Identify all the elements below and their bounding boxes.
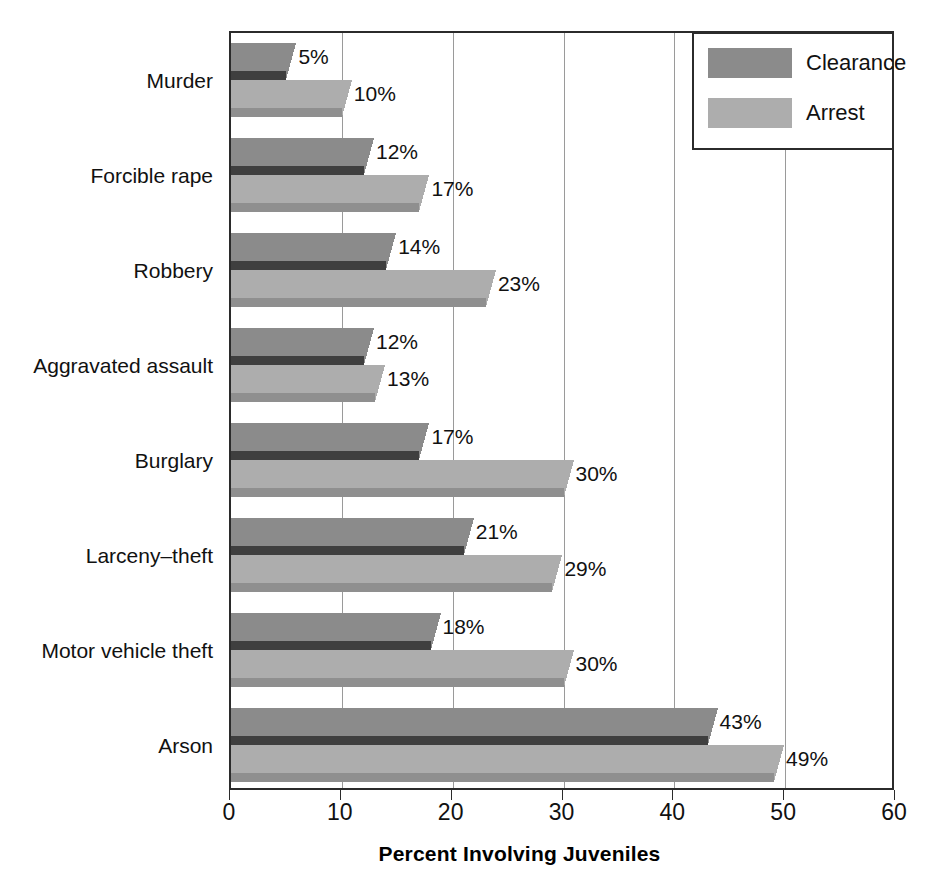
bar-face bbox=[231, 423, 419, 451]
bar bbox=[231, 423, 419, 460]
category-label-robbery: Robbery bbox=[134, 260, 213, 281]
legend-label-clearance: Clearance bbox=[806, 52, 906, 74]
legend-entry-clearance: Clearance bbox=[708, 48, 906, 78]
legend-label-arrest: Arrest bbox=[806, 102, 865, 124]
x-tick-label-50: 50 bbox=[770, 801, 796, 824]
bar-shadow bbox=[231, 166, 364, 175]
bar bbox=[231, 555, 552, 592]
bar-shadow bbox=[231, 108, 342, 117]
bar-shadow bbox=[231, 261, 386, 270]
bar-value-label: 13% bbox=[387, 368, 429, 389]
bar-value-label: 5% bbox=[298, 46, 328, 67]
category-label-arson: Arson bbox=[158, 734, 213, 755]
category-label-larceny-theft: Larceny–theft bbox=[86, 544, 213, 565]
bar-cap bbox=[464, 518, 474, 555]
x-axis-title-text: Percent Involving Juveniles bbox=[379, 842, 661, 866]
bar-shadow bbox=[231, 298, 486, 307]
bar-shadow bbox=[231, 488, 564, 497]
bar-value-label: 18% bbox=[443, 615, 485, 636]
bar-value-label: 30% bbox=[576, 462, 618, 483]
bar-shadow bbox=[231, 451, 419, 460]
bar-face bbox=[231, 555, 552, 583]
bar-face bbox=[231, 233, 386, 261]
bar-cap bbox=[774, 745, 784, 782]
bar bbox=[231, 43, 286, 80]
bar bbox=[231, 233, 386, 270]
x-tick-label-10: 10 bbox=[327, 801, 353, 824]
bar-value-label: 43% bbox=[720, 710, 762, 731]
bar-face bbox=[231, 460, 564, 488]
legend-swatch-clearance-icon bbox=[708, 48, 792, 78]
legend-entry-arrest: Arrest bbox=[708, 98, 865, 128]
bar bbox=[231, 518, 464, 555]
category-label-murder: Murder bbox=[146, 70, 213, 91]
bar-shadow bbox=[231, 356, 364, 365]
bar-face bbox=[231, 518, 464, 546]
bar-face bbox=[231, 175, 419, 203]
gridline-40 bbox=[674, 33, 675, 788]
bar-shadow bbox=[231, 71, 286, 80]
bar-cap bbox=[419, 423, 429, 460]
x-tick-label-0: 0 bbox=[223, 801, 236, 824]
bar-cap bbox=[486, 270, 496, 307]
bar-value-label: 21% bbox=[476, 520, 518, 541]
bar-face bbox=[231, 650, 564, 678]
bar-shadow bbox=[231, 641, 431, 650]
bar-chart: MurderForcible rapeRobberyAggravated ass… bbox=[0, 0, 931, 889]
bar-cap bbox=[564, 460, 574, 497]
bar-value-label: 17% bbox=[431, 178, 473, 199]
bar-value-label: 29% bbox=[564, 557, 606, 578]
bar-face bbox=[231, 365, 375, 393]
x-tick-label-40: 40 bbox=[660, 801, 686, 824]
bar-face bbox=[231, 708, 708, 736]
bar bbox=[231, 650, 564, 687]
bar-value-label: 49% bbox=[786, 747, 828, 768]
bar-cap bbox=[386, 233, 396, 270]
bar-face bbox=[231, 613, 431, 641]
bar bbox=[231, 708, 708, 745]
bar bbox=[231, 365, 375, 402]
category-label-motor-vehicle-theft: Motor vehicle theft bbox=[41, 639, 213, 660]
bar bbox=[231, 80, 342, 117]
bar-cap bbox=[364, 328, 374, 365]
bar-face bbox=[231, 270, 486, 298]
bar-shadow bbox=[231, 678, 564, 687]
bar bbox=[231, 745, 774, 782]
bar-shadow bbox=[231, 583, 552, 592]
bar-shadow bbox=[231, 393, 375, 402]
bar bbox=[231, 138, 364, 175]
bar-value-label: 30% bbox=[576, 652, 618, 673]
bar-shadow bbox=[231, 546, 464, 555]
bar-face bbox=[231, 80, 342, 108]
bar-shadow bbox=[231, 203, 419, 212]
bar bbox=[231, 613, 431, 650]
x-axis-title: Percent Involving Juveniles bbox=[0, 842, 931, 866]
bar-shadow bbox=[231, 736, 708, 745]
bar-cap bbox=[342, 80, 352, 117]
bar-cap bbox=[431, 613, 441, 650]
bar bbox=[231, 270, 486, 307]
bar-face bbox=[231, 328, 364, 356]
bar bbox=[231, 175, 419, 212]
x-tick-label-60: 60 bbox=[881, 801, 907, 824]
bar-face bbox=[231, 43, 286, 71]
bar-cap bbox=[364, 138, 374, 175]
category-label-burglary: Burglary bbox=[135, 449, 213, 470]
bar-cap bbox=[419, 175, 429, 212]
bar-cap bbox=[564, 650, 574, 687]
category-label-aggravated-assault: Aggravated assault bbox=[33, 355, 213, 376]
bar-value-label: 14% bbox=[398, 236, 440, 257]
bar-value-label: 10% bbox=[354, 83, 396, 104]
x-tick-label-20: 20 bbox=[438, 801, 464, 824]
legend-swatch-arrest-icon bbox=[708, 98, 792, 128]
x-tick-label-30: 30 bbox=[549, 801, 575, 824]
category-label-forcible-rape: Forcible rape bbox=[90, 165, 213, 186]
bar-cap bbox=[286, 43, 296, 80]
bar-shadow bbox=[231, 773, 774, 782]
bar-cap bbox=[375, 365, 385, 402]
bar-value-label: 17% bbox=[431, 425, 473, 446]
bar-value-label: 12% bbox=[376, 141, 418, 162]
bar bbox=[231, 460, 564, 497]
legend: Clearance Arrest bbox=[692, 32, 894, 150]
bar-cap bbox=[708, 708, 718, 745]
